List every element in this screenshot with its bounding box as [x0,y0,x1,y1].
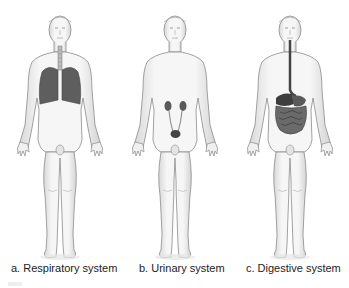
intestines-icon [276,106,307,134]
digestive-figure [232,0,348,262]
urinary-figure [117,0,233,262]
panel-label-c: c. Digestive system [246,262,341,274]
panel-urinary: b. Urinary system [117,0,233,288]
trachea-icon [58,46,62,70]
respiratory-figure [2,0,118,262]
figure-caption-marker [8,282,22,286]
bladder-icon [171,130,181,138]
panel-respiratory: a. Respiratory system [2,0,118,288]
panel-label-a: a. Respiratory system [11,262,117,274]
panel-label-b: b. Urinary system [139,262,225,274]
panel-digestive: c. Digestive system [232,0,348,288]
